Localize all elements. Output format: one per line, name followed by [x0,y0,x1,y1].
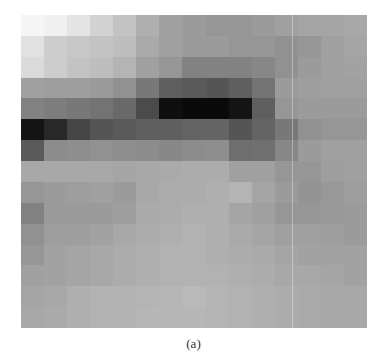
grid-cell [21,161,44,182]
grid-cell [21,307,44,328]
grid-cell [298,245,321,266]
grid-cell [344,15,367,36]
grid-cell [229,245,252,266]
grid-cell [159,182,182,203]
grid-cell [113,98,136,119]
grid-cell [182,265,205,286]
grid-cell [344,36,367,57]
grid-cell [275,119,298,140]
grid-cell [321,307,344,328]
grid-cell [159,307,182,328]
grid-cell [113,119,136,140]
grid-cell [90,224,113,245]
grid-cell [21,140,44,161]
grid-cell [321,98,344,119]
grid-cell [90,203,113,224]
grid-cell [21,119,44,140]
grid-cell [229,15,252,36]
grid-cell [321,119,344,140]
grid-cell [44,78,67,99]
grid-cell [321,224,344,245]
grid-cell [90,98,113,119]
grid-cell [182,182,205,203]
grid-cell [298,119,321,140]
grid-cell [182,161,205,182]
grid-cell [90,307,113,328]
grid-cell [44,307,67,328]
grid-cell [113,224,136,245]
grid-cell [206,245,229,266]
grid-cell [206,286,229,307]
grid-cell [67,78,90,99]
grid-cell [21,224,44,245]
grid-cell [159,161,182,182]
grid-cell [298,15,321,36]
grid-cell [344,57,367,78]
grid-cell [321,182,344,203]
grid-cell [136,203,159,224]
grid-cell [229,203,252,224]
grid-cell [21,203,44,224]
grid-cell [113,36,136,57]
grid-cell [229,224,252,245]
grid-cell [321,15,344,36]
grid-cell [298,286,321,307]
grid-cell [159,15,182,36]
grid-cell [275,307,298,328]
grid-cell [67,36,90,57]
grid-cell [159,224,182,245]
grid-cell [182,57,205,78]
grid-cell [252,57,275,78]
grid-cell [321,36,344,57]
grid-cell [275,245,298,266]
grid-cell [298,224,321,245]
grid-cell [67,224,90,245]
grid-cell [67,119,90,140]
grid-cell [275,36,298,57]
grid-cell [298,98,321,119]
grid-cell [136,182,159,203]
grid-cell [44,265,67,286]
grid-cell [182,15,205,36]
grid-cell [206,265,229,286]
grid-cell [182,245,205,266]
grid-cell [90,286,113,307]
grid-cell [344,119,367,140]
grid-cell [229,140,252,161]
grid-cell [159,98,182,119]
grid-cell [159,203,182,224]
grid-cell [21,182,44,203]
grid-cell [321,286,344,307]
grid-cell [182,98,205,119]
grid-cell [229,98,252,119]
grid-cell [206,182,229,203]
grid-cell [90,161,113,182]
grid-cell [136,119,159,140]
grid-cell [113,140,136,161]
grid-cell [136,265,159,286]
grid-cell [21,265,44,286]
grid-cell [136,15,159,36]
grid-cell [67,286,90,307]
grid-cell [206,36,229,57]
grid-cell [113,203,136,224]
grid-cell [252,307,275,328]
grid-cell [113,245,136,266]
grid-cell [44,98,67,119]
grid-cell [21,78,44,99]
grid-cell [67,182,90,203]
grid-cell [298,182,321,203]
grid-cell [21,286,44,307]
figure-caption: (a) [0,336,387,352]
grid-cell [298,78,321,99]
grid-cell [206,119,229,140]
grid-cell [113,15,136,36]
grid-cell [44,224,67,245]
grid-cell [298,57,321,78]
grid-cell [298,36,321,57]
grid-cell [344,286,367,307]
grid-cell [113,161,136,182]
grid-cell [21,36,44,57]
grid-cell [344,140,367,161]
grid-cell [159,265,182,286]
